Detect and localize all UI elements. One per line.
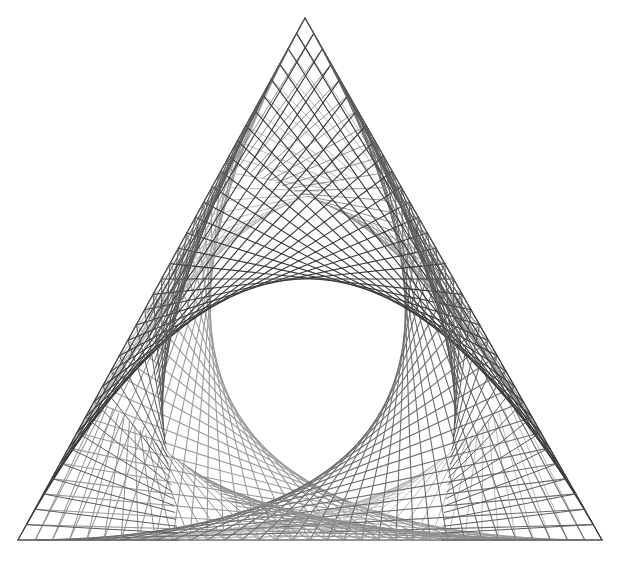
string-line [232, 33, 313, 164]
string-line [151, 439, 190, 540]
string-line [310, 279, 454, 540]
string-line [121, 422, 129, 540]
string-line [43, 494, 176, 519]
string-line [320, 202, 436, 248]
string-line [26, 525, 177, 534]
string-line [510, 405, 568, 540]
string-line [444, 494, 576, 519]
string-line [104, 418, 124, 540]
string-line [178, 202, 293, 248]
string-line [443, 509, 585, 526]
string-line [245, 64, 331, 170]
string-line [442, 525, 593, 534]
string-line [35, 509, 177, 526]
string-line [87, 79, 272, 540]
string-art-figure [0, 0, 618, 569]
